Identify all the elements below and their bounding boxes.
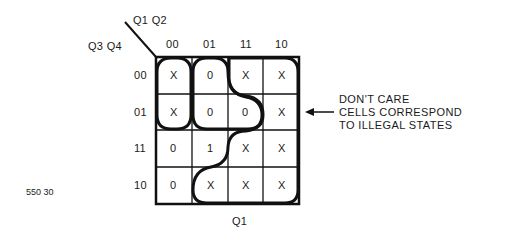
row-header-10: 10 xyxy=(134,179,147,191)
cell-r1-c2: 0 xyxy=(242,106,248,118)
col-header-00: 00 xyxy=(166,38,179,50)
annotation-line-3: TO ILLEGAL STATES xyxy=(339,119,462,132)
cell-r0-c0: X xyxy=(170,69,178,81)
col-variable-label: Q1 Q2 xyxy=(133,14,167,26)
corner-diagonal xyxy=(125,22,156,57)
cell-r1-c1: 0 xyxy=(207,106,213,118)
dont-care-annotation: DON'T CARE CELLS CORRESPOND TO ILLEGAL S… xyxy=(339,93,462,132)
bottom-q1-label: Q1 xyxy=(232,215,247,227)
col-header-10: 10 xyxy=(275,38,288,50)
cell-r3-c1: X xyxy=(207,179,215,191)
cell-r3-c3: X xyxy=(278,179,286,191)
cell-r2-c3: X xyxy=(278,142,286,154)
cell-r0-c2: X xyxy=(242,69,250,81)
row-header-00: 00 xyxy=(134,69,147,81)
row-variable-label: Q3 Q4 xyxy=(88,40,122,52)
cell-r2-c2: X xyxy=(242,142,250,154)
row-header-01: 01 xyxy=(134,106,147,118)
col-header-11: 11 xyxy=(240,38,252,50)
cell-r2-c1: 1 xyxy=(207,142,213,154)
annotation-line-2: CELLS CORRESPOND xyxy=(339,106,462,119)
cell-r1-c0: X xyxy=(170,106,178,118)
cell-r1-c3: X xyxy=(278,106,286,118)
cell-r3-c0: 0 xyxy=(170,179,176,191)
col-header-01: 01 xyxy=(203,38,216,50)
cell-r2-c0: 0 xyxy=(170,142,176,154)
annotation-line-1: DON'T CARE xyxy=(339,93,462,106)
row-header-11: 11 xyxy=(134,142,146,154)
figure-id: 550 30 xyxy=(26,187,54,197)
cell-r0-c3: X xyxy=(278,69,286,81)
cell-r0-c1: 0 xyxy=(207,69,213,81)
cell-r3-c2: X xyxy=(242,179,250,191)
